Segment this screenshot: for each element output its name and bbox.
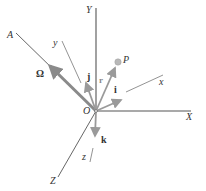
rotating-frame-diagram: Y X Z A y x z O P Ω j i k r: [0, 0, 206, 191]
label-r: r: [99, 75, 103, 85]
label-i: i: [114, 84, 117, 95]
label-k: k: [101, 134, 107, 145]
label-Z: Z: [50, 175, 56, 186]
y-axis-line: [62, 41, 81, 83]
label-P: P: [122, 54, 129, 65]
label-Y: Y: [86, 4, 93, 15]
label-y: y: [52, 37, 58, 48]
label-A: A: [6, 29, 14, 40]
label-O: O: [83, 105, 90, 116]
origin-dot: [95, 110, 98, 113]
label-x: x: [158, 76, 164, 87]
x-axis-line: [126, 75, 163, 92]
label-X: X: [185, 111, 193, 122]
label-j: j: [86, 71, 90, 82]
label-z: z: [81, 151, 86, 162]
point-P-dot: [115, 59, 121, 65]
Z-axis-line: [58, 111, 96, 177]
label-omega: Ω: [36, 68, 44, 79]
z-axis-line: [90, 148, 93, 162]
k-vector: [95, 111, 96, 136]
